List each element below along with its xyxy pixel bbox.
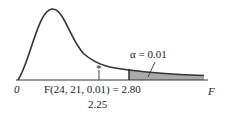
origin-label: 0 [14, 83, 20, 95]
f-distribution-chart: * α = 0.01 0 F(24, 21, 0.01) = 2.80 F 2.… [0, 0, 229, 118]
alpha-label: α = 0.01 [130, 48, 167, 60]
critical-value-label: F(24, 21, 0.01) = 2.80 [44, 83, 141, 96]
observed-star: * [96, 62, 102, 74]
density-curve [18, 9, 204, 80]
observed-value-label: 2.25 [88, 98, 108, 110]
x-axis-label: F [207, 85, 215, 97]
